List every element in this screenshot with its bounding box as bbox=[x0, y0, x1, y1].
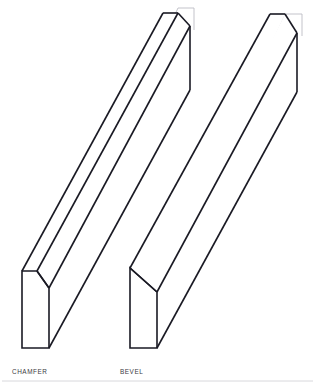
chamfer-bevel-diagram: CHAMFER BEVEL bbox=[0, 0, 317, 385]
chamfer-label: CHAMFER bbox=[12, 368, 47, 375]
figure-root: CHAMFER BEVEL bbox=[0, 0, 317, 385]
bevel-label: BEVEL bbox=[120, 368, 143, 375]
